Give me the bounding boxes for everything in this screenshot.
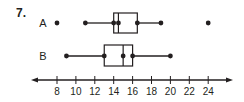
outlier-point xyxy=(206,21,211,26)
series-label: A xyxy=(39,17,47,29)
tick-label: 18 xyxy=(146,86,158,97)
series-label: B xyxy=(39,50,46,62)
number-line-axis: 81012141618202224 xyxy=(31,76,233,97)
tick-label: 24 xyxy=(203,86,215,97)
summary-point xyxy=(135,21,140,26)
summary-point xyxy=(116,21,121,26)
tick-label: 8 xyxy=(54,86,60,97)
tick-label: 22 xyxy=(184,86,196,97)
right-arrow-icon xyxy=(226,78,233,83)
tick-label: 14 xyxy=(108,86,120,97)
summary-point xyxy=(130,54,135,59)
outlier-point xyxy=(55,21,60,26)
iqr-box xyxy=(104,45,132,66)
summary-point xyxy=(111,21,116,26)
left-arrow-icon xyxy=(31,78,38,83)
tick-label: 20 xyxy=(165,86,177,97)
summary-point xyxy=(83,21,88,26)
summary-point xyxy=(102,54,107,59)
tick-label: 16 xyxy=(127,86,139,97)
summary-point xyxy=(64,54,69,59)
summary-point xyxy=(121,54,126,59)
box-plot-b: B xyxy=(39,45,172,66)
box-plot-chart: AB 81012141618202224 xyxy=(0,0,244,102)
tick-label: 12 xyxy=(89,86,101,97)
summary-point xyxy=(168,54,173,59)
tick-label: 10 xyxy=(70,86,82,97)
box-plots: AB xyxy=(39,13,210,66)
box-plot-a: A xyxy=(39,13,210,33)
summary-point xyxy=(159,21,164,26)
